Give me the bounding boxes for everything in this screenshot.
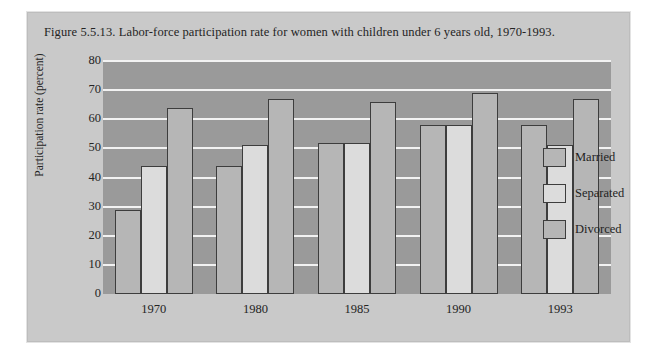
y-tick-label: 20 bbox=[61, 228, 101, 243]
gridline bbox=[103, 60, 611, 62]
plot-area: 01020304050607080 MarriedSeparatedDivorc… bbox=[103, 61, 611, 294]
bar bbox=[216, 166, 242, 294]
bar bbox=[268, 99, 294, 294]
figure-caption: Figure 5.5.13. Labor-force participation… bbox=[44, 25, 614, 40]
legend-item: Divorced bbox=[543, 211, 653, 247]
x-tick-label: 1990 bbox=[446, 302, 471, 317]
y-tick-label: 40 bbox=[61, 170, 101, 185]
legend-item: Married bbox=[543, 139, 653, 175]
legend-label: Separated bbox=[575, 186, 624, 201]
bar bbox=[370, 102, 396, 294]
x-axis-tick-labels: 19701980198519901993 bbox=[103, 296, 611, 324]
y-axis-title: Participation rate (percent) bbox=[33, 0, 45, 275]
x-tick-label: 1970 bbox=[141, 302, 166, 317]
legend-label: Divorced bbox=[575, 222, 622, 237]
legend-label: Married bbox=[575, 150, 615, 165]
gridline bbox=[103, 89, 611, 91]
legend-item: Separated bbox=[543, 175, 653, 211]
figure-panel: Figure 5.5.13. Labor-force participation… bbox=[27, 12, 630, 342]
bar bbox=[472, 93, 498, 294]
y-tick-label: 50 bbox=[61, 140, 101, 155]
bar bbox=[318, 143, 344, 294]
y-tick-label: 80 bbox=[61, 53, 101, 68]
y-tick-label: 70 bbox=[61, 82, 101, 97]
bar bbox=[420, 125, 446, 294]
legend-swatch-icon bbox=[543, 220, 566, 239]
bar bbox=[242, 145, 268, 294]
bar bbox=[141, 166, 167, 294]
y-tick-label: 0 bbox=[61, 286, 101, 301]
legend-swatch-icon bbox=[543, 148, 566, 167]
y-tick-label: 30 bbox=[61, 199, 101, 214]
bar bbox=[344, 143, 370, 294]
y-tick-label: 10 bbox=[61, 257, 101, 272]
bar bbox=[167, 108, 193, 294]
x-tick-label: 1993 bbox=[548, 302, 573, 317]
x-tick-label: 1980 bbox=[243, 302, 268, 317]
bar bbox=[115, 210, 141, 294]
legend-swatch-icon bbox=[543, 184, 566, 203]
bar bbox=[446, 125, 472, 294]
y-tick-label: 60 bbox=[61, 111, 101, 126]
x-tick-label: 1985 bbox=[345, 302, 370, 317]
chart-legend: MarriedSeparatedDivorced bbox=[543, 139, 653, 247]
